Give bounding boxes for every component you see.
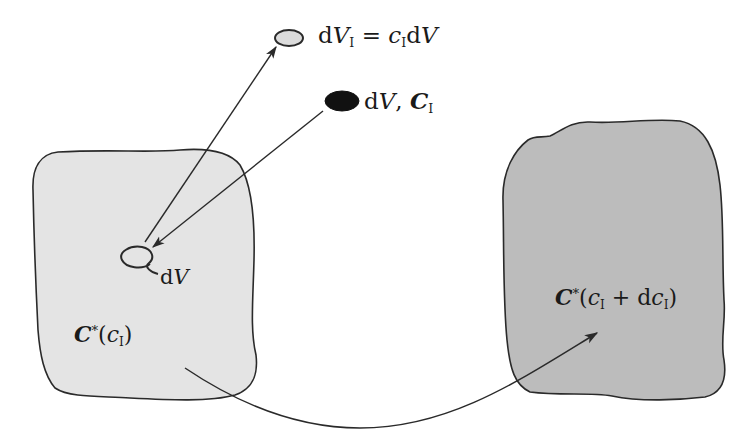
label-text: , [395, 88, 410, 114]
right-body-label: C*(cI + dcI) [555, 286, 677, 311]
label-subscript: I [428, 101, 433, 116]
diagram-canvas [0, 0, 754, 444]
label-text: V [173, 265, 188, 289]
left-body-label: C*(cI) [74, 323, 132, 348]
intermediate-volume-element-icon [275, 30, 303, 46]
label-text: = [354, 22, 388, 48]
label-text: d [318, 22, 333, 48]
label-text: V [333, 22, 350, 48]
label-text: + d [605, 285, 652, 310]
label-text: c [388, 22, 401, 48]
label-text: c [107, 322, 119, 347]
label-text: C [555, 284, 573, 310]
label-text: V [379, 88, 396, 114]
label-text: c [588, 285, 600, 310]
label-text: ( [98, 322, 107, 347]
label-text: ) [124, 322, 133, 347]
label-text: C [410, 87, 428, 114]
loop-volume-label: dV [160, 267, 189, 288]
volume-element-with-tensor-icon [325, 91, 359, 111]
left-body-shape [33, 149, 257, 400]
volume-element-label: dV, CI [364, 89, 433, 116]
label-text: V [421, 22, 438, 48]
label-text: c [651, 285, 663, 310]
label-text: d [160, 265, 173, 289]
label-text: d [364, 88, 379, 114]
right-body-shape [503, 120, 725, 400]
label-text: ( [579, 285, 588, 310]
intermediate-volume-label: dVI = cIdV [318, 24, 438, 50]
label-text: d [406, 22, 421, 48]
label-text: C [74, 321, 92, 347]
label-text: ) [668, 285, 677, 310]
